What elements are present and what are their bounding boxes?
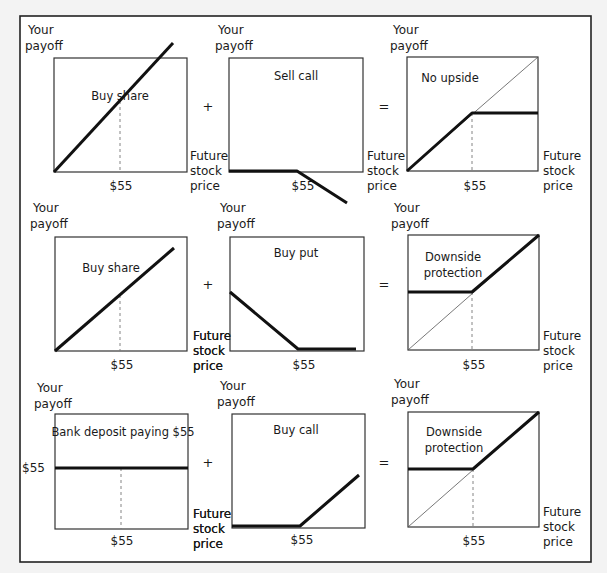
x-axis-label: price [190, 179, 220, 193]
strike-price-label: $55 [110, 179, 133, 193]
panel-title: Sell call [274, 69, 318, 83]
panel-title: Buy call [273, 423, 318, 437]
y-axis-label: Your [219, 379, 246, 393]
strike-price-label: $55 [464, 179, 487, 193]
y-axis-label: payoff [390, 39, 428, 53]
x-axis-label: Future [367, 149, 405, 163]
y-axis-label: Your [219, 201, 246, 215]
x-axis-label: price [193, 537, 223, 551]
y-axis-label: Your [36, 381, 63, 395]
panel-title: protection [424, 266, 483, 280]
payoff-diagrams-svg: YourpayoffFuturestockprice$55Buy shareYo… [0, 0, 607, 573]
x-axis-label: stock [367, 164, 399, 178]
x-axis-label: stock [193, 344, 225, 358]
strike-price-label: $55 [111, 534, 134, 548]
plus-operator: + [203, 277, 214, 292]
x-axis-label: price [543, 359, 573, 373]
y-axis-label: Your [32, 201, 59, 215]
y-value-label: $55 [22, 461, 45, 475]
strike-price-label: $55 [291, 533, 314, 547]
panel-title: Downside [426, 425, 482, 439]
y-axis-label: payoff [215, 39, 253, 53]
y-axis-label: Your [27, 23, 54, 37]
y-axis-label: Your [392, 23, 419, 37]
y-axis-label: payoff [391, 217, 429, 231]
x-axis-label: stock [543, 520, 575, 534]
x-axis-label: stock [190, 164, 222, 178]
plus-operator: + [203, 455, 214, 470]
panel-title: Buy put [274, 246, 319, 260]
x-axis-label: Future [190, 149, 228, 163]
y-axis-label: payoff [391, 393, 429, 407]
y-axis-label: payoff [217, 395, 255, 409]
y-axis-label: payoff [217, 217, 255, 231]
y-axis-label: payoff [25, 39, 63, 53]
x-axis-label: price [367, 179, 397, 193]
x-axis-label: Future [543, 149, 581, 163]
x-axis-label: Future [543, 505, 581, 519]
option-payoff-diagram: YourpayoffFuturestockprice$55Buy shareYo… [0, 0, 607, 573]
x-axis-label: Future [193, 329, 231, 343]
equals-operator: = [379, 99, 390, 114]
x-axis-label: Future [193, 507, 231, 521]
y-axis-label: Your [393, 377, 420, 391]
x-axis-label: stock [543, 164, 575, 178]
panel-title: Buy share [82, 261, 140, 275]
plus-operator: + [203, 99, 214, 114]
x-axis-label: Future [543, 329, 581, 343]
strike-price-label: $55 [463, 358, 486, 372]
strike-price-label: $55 [293, 358, 316, 372]
equals-operator: = [379, 455, 390, 470]
panel-box-buy-share [54, 58, 187, 172]
x-axis-label: price [543, 535, 573, 549]
x-axis-label: stock [193, 522, 225, 536]
y-axis-label: Your [393, 201, 420, 215]
x-axis-label: stock [543, 344, 575, 358]
equals-operator: = [379, 277, 390, 292]
strike-price-label: $55 [463, 534, 486, 548]
panel-title: protection [425, 441, 484, 455]
x-axis-label: price [543, 179, 573, 193]
y-axis-label: payoff [34, 397, 72, 411]
strike-price-label: $55 [111, 358, 134, 372]
panel-title: Downside [425, 250, 481, 264]
panel-title: No upside [421, 71, 478, 85]
x-axis-label: price [193, 359, 223, 373]
y-axis-label: Your [217, 23, 244, 37]
panel-title: Bank deposit paying $55 [51, 425, 194, 439]
y-axis-label: payoff [30, 217, 68, 231]
